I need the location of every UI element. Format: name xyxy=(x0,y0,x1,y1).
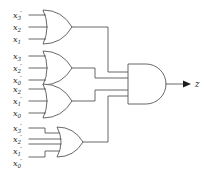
input-label-g4-4: x0′ xyxy=(13,159,22,170)
input-label-g2-2: x2′ xyxy=(13,64,22,75)
or-gate-2 xyxy=(29,51,128,85)
input-label-g3-2: x1′ xyxy=(13,97,22,108)
and-gate-1 xyxy=(128,64,191,104)
input-label-g1-3: x1 xyxy=(13,35,20,46)
or-gate-4 xyxy=(29,96,128,157)
or-gate-4-input-wire-1 xyxy=(29,128,59,133)
input-label-g4-1: x3′ xyxy=(13,124,22,135)
output-label: z xyxy=(195,80,199,88)
or-gate-1 xyxy=(29,10,128,72)
or-gate-3-output-wire xyxy=(72,90,128,101)
or-gate-4-body xyxy=(57,127,83,157)
input-label-g1-2: x2 xyxy=(13,23,20,34)
input-label-g4-3: x1′ xyxy=(13,147,22,158)
or-gate-1-output-wire xyxy=(72,27,128,72)
circuit-diagram: x3′ x2 x1 x3 x2′ x0′ x2 x1′ x0 x3′ x2′ x… xyxy=(0,0,208,180)
or-gate-4-output-wire xyxy=(83,96,128,142)
input-label-g4-2: x2′ xyxy=(13,135,22,146)
or-gate-3 xyxy=(29,84,128,118)
and-gate-1-body xyxy=(128,64,166,104)
circuit-svg xyxy=(0,0,208,180)
input-label-g3-3: x0 xyxy=(13,109,20,120)
input-label-g1-1: x3′ xyxy=(13,11,22,22)
input-label-g3-1: x2 xyxy=(13,85,20,96)
or-gate-2-output-wire xyxy=(72,68,128,78)
output-arrowhead xyxy=(183,81,191,88)
or-gate-4-input-wire-4 xyxy=(29,151,59,157)
input-label-g2-1: x3 xyxy=(13,52,20,63)
